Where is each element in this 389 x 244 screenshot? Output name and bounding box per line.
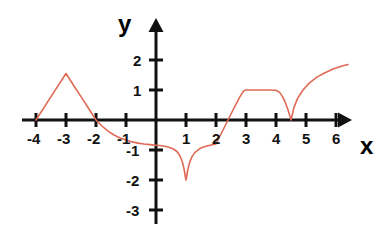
x-tick-label--2: -2 (87, 131, 100, 146)
x-tick-label-6: 6 (332, 131, 340, 146)
x-tick-label-2: 2 (212, 131, 220, 146)
x-tick-label-4: 4 (272, 131, 280, 146)
x-tick-label--4: -4 (27, 131, 40, 146)
y-tick-label-1: 1 (133, 83, 141, 98)
y-tick-label--1: -1 (126, 143, 139, 158)
y-tick-label-2: 2 (133, 53, 141, 68)
x-axis-label: x (360, 134, 373, 158)
x-tick-label-5: 5 (302, 131, 310, 146)
coordinate-plot (0, 0, 389, 244)
y-axis-arrowhead (149, 18, 164, 32)
x-tick-label-1: 1 (182, 131, 190, 146)
graph-figure: y x -4 -3 -2 -1 1 2 3 4 5 6 2 1 -1 -2 -3 (0, 0, 389, 244)
y-tick-label--2: -2 (126, 173, 139, 188)
x-tick-label-3: 3 (242, 131, 250, 146)
x-axis-arrowhead (338, 113, 352, 128)
y-axis-label: y (118, 12, 131, 36)
x-tick-label--3: -3 (57, 131, 70, 146)
function-curve (36, 65, 348, 181)
y-tick-label--3: -3 (126, 203, 139, 218)
